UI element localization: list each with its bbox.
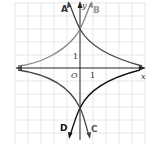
curve-c	[18, 70, 89, 136]
curve-label-a: A	[61, 4, 68, 14]
x-axis-label: x	[141, 72, 146, 81]
curve-label-b: B	[93, 5, 100, 15]
curve-label-d: D	[60, 123, 67, 133]
origin-label: O	[71, 71, 78, 80]
y-tick-label: 1	[73, 52, 78, 61]
curve-d-arrow-icon	[68, 132, 73, 139]
curve-label-c: C	[91, 124, 98, 134]
x-tick-label: 1	[90, 71, 95, 80]
function-graph: A B C D y x O 1 1	[0, 0, 153, 146]
axes	[16, 1, 146, 140]
y-axis-label: y	[81, 1, 87, 10]
